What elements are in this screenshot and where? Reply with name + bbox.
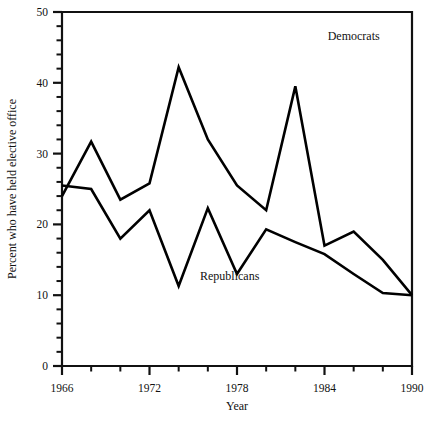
- x-tick-label-1972: 1972: [138, 382, 161, 394]
- x-tick-label-1990: 1990: [401, 382, 424, 394]
- y-axis-title: Percent who have held elective office: [5, 99, 19, 279]
- y-tick-label-40: 40: [37, 77, 49, 89]
- x-tick-label-1978: 1978: [226, 382, 249, 394]
- x-tick-label-1984: 1984: [313, 382, 336, 394]
- x-axis-title: Year: [226, 399, 248, 413]
- y-tick-label-0: 0: [42, 360, 48, 372]
- y-tick-label-30: 30: [37, 148, 49, 160]
- republicans-label: Republicans: [200, 269, 260, 283]
- y-tick-label-50: 50: [37, 6, 49, 18]
- chart-container: 01020304050 19661972197819841990 Democra…: [0, 0, 427, 421]
- y-tick-label-20: 20: [37, 218, 49, 230]
- line-chart: 01020304050 19661972197819841990 Democra…: [0, 0, 427, 421]
- chart-background: [0, 0, 427, 421]
- x-tick-label-1966: 1966: [51, 382, 74, 394]
- y-tick-label-10: 10: [37, 289, 49, 301]
- democrats-label: Democrats: [328, 29, 380, 43]
